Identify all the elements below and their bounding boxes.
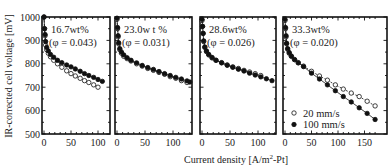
- data-point-filled: [365, 111, 369, 115]
- data-point-filled: [115, 16, 119, 20]
- data-point-filled: [134, 61, 138, 65]
- data-point-filled: [64, 63, 68, 67]
- data-point-open: [64, 69, 68, 73]
- data-point-filled: [162, 71, 166, 75]
- data-point-filled: [259, 75, 263, 79]
- y-tick-label: 1000: [20, 12, 40, 23]
- data-point-filled: [283, 25, 287, 29]
- x-tick-label: 100: [166, 137, 181, 148]
- data-point-open: [325, 78, 329, 82]
- data-point-filled: [87, 73, 91, 77]
- y-tick-label: 900: [25, 35, 40, 46]
- x-tick-label: 100: [331, 137, 346, 148]
- data-point-filled: [341, 94, 345, 98]
- x-tick-label: 50: [66, 137, 76, 148]
- data-point-filled: [43, 32, 47, 36]
- x-axis-title: Current density [A/m2-Pt]: [184, 153, 288, 165]
- y-tick-label: 500: [25, 129, 40, 140]
- data-point-filled: [325, 83, 329, 87]
- x-axis-label: Current density [A/m2-Pt]: [184, 153, 288, 165]
- y-tick-label: 800: [25, 58, 40, 69]
- x-tick-label: 0: [42, 137, 47, 148]
- data-point-filled: [174, 75, 178, 79]
- data-point-filled: [242, 69, 246, 73]
- data-point-filled: [236, 67, 240, 71]
- data-point-filled: [219, 61, 223, 65]
- y-axis-title: IR-corrected cell voltage [mV]: [3, 14, 14, 138]
- y-tick-labels: 5006007008009001000: [20, 12, 40, 140]
- panel-concentration-label: 28.6wt%: [209, 24, 247, 35]
- x-tick-label: 50: [225, 137, 235, 148]
- x-tick-label: 100: [91, 137, 106, 148]
- panel-2: 05010023.0w t %(φ = 0.031): [115, 16, 193, 148]
- data-point-open: [341, 87, 345, 91]
- legend-open-marker: [292, 111, 296, 115]
- data-point-filled: [116, 34, 120, 38]
- data-point-open: [333, 83, 337, 87]
- data-point-filled: [231, 65, 235, 69]
- data-point-open: [78, 76, 82, 80]
- data-point-filled: [78, 69, 82, 73]
- panel-1: 05010016.7wt%(φ = 0.043): [42, 15, 111, 148]
- data-point-filled: [357, 106, 361, 110]
- data-point-open: [91, 83, 95, 87]
- x-tick-label: 50: [307, 137, 317, 148]
- legend: 20 mm/s100 mm/s: [292, 108, 345, 131]
- data-point-filled: [247, 71, 251, 75]
- data-point-filled: [225, 63, 229, 67]
- data-point-filled: [168, 73, 172, 77]
- data-point-filled: [42, 27, 46, 31]
- data-point-filled: [129, 58, 133, 62]
- data-point-filled: [157, 69, 161, 73]
- data-point-filled: [179, 77, 183, 81]
- data-point-filled: [146, 65, 150, 69]
- data-point-filled: [200, 17, 204, 21]
- data-point-filled: [55, 58, 59, 62]
- x-tick-label: 0: [283, 137, 288, 148]
- x-tick-label: 0: [115, 137, 120, 148]
- data-point-filled: [115, 25, 119, 29]
- data-point-filled: [333, 89, 337, 93]
- data-point-filled: [349, 100, 353, 104]
- data-point-open: [373, 104, 377, 108]
- data-point-filled: [373, 117, 377, 121]
- x-tick-label: 0: [200, 137, 205, 148]
- x-tick-label: 100: [251, 137, 266, 148]
- panel-concentration-label: 16.7wt%: [51, 24, 89, 35]
- panel-concentration-label: 23.0w t %: [124, 24, 167, 35]
- data-point-filled: [214, 58, 218, 62]
- data-point-filled: [52, 55, 56, 59]
- data-point-filled: [188, 80, 192, 84]
- data-point-filled: [301, 64, 305, 68]
- data-point-filled: [253, 73, 257, 77]
- data-point-filled: [69, 65, 73, 69]
- data-point-open: [357, 94, 361, 98]
- data-point-filled: [200, 24, 204, 28]
- data-point-open: [87, 80, 91, 84]
- legend-filled-marker: [292, 122, 296, 126]
- data-point-filled: [116, 41, 120, 45]
- data-point-filled: [201, 39, 205, 43]
- data-point-filled: [100, 79, 104, 83]
- data-point-open: [96, 85, 100, 89]
- legend-label-100mms: 100 mm/s: [303, 119, 345, 130]
- panel-concentration-label: 33.3wt%: [292, 24, 330, 35]
- panel-phi-label: (φ = 0.043): [49, 37, 97, 49]
- data-point-filled: [309, 71, 313, 75]
- data-point-filled: [43, 39, 47, 43]
- data-point-filled: [82, 71, 86, 75]
- data-point-filled: [210, 55, 214, 59]
- data-point-filled: [284, 41, 288, 45]
- data-point-open: [60, 65, 64, 69]
- data-point-filled: [151, 67, 155, 71]
- x-tick-label: 150: [357, 137, 372, 148]
- data-point-open: [365, 99, 369, 103]
- data-point-filled: [60, 60, 64, 64]
- data-point-filled: [296, 61, 300, 65]
- data-point-filled: [270, 78, 274, 82]
- x-tick-label: 50: [140, 137, 150, 148]
- data-point-filled: [317, 77, 321, 81]
- data-point-filled: [140, 63, 144, 67]
- data-point-open: [349, 91, 353, 95]
- legend-label-20mms: 20 mm/s: [303, 108, 339, 119]
